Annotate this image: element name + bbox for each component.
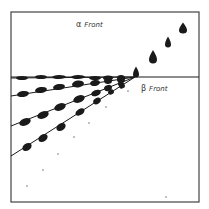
scatter-dot xyxy=(42,169,43,170)
beta-blob xyxy=(90,88,102,97)
scatter-dot xyxy=(105,106,106,107)
reaction-front-diagram xyxy=(0,0,209,209)
alpha-front-label: αFront xyxy=(76,20,103,29)
beta-blob xyxy=(90,79,101,86)
scatter-dots xyxy=(26,90,166,197)
beta-blob xyxy=(74,107,86,117)
beta-front-label: βFront xyxy=(141,84,167,93)
beta-blob xyxy=(92,96,102,105)
scatter-dot xyxy=(73,136,74,137)
alpha-drop xyxy=(165,37,171,48)
alpha-drop xyxy=(133,67,139,78)
beta-blob xyxy=(72,94,86,105)
beta-blob xyxy=(35,75,47,79)
alpha-drops xyxy=(133,23,187,78)
scatter-dot xyxy=(88,122,89,123)
beta-blob xyxy=(37,132,49,143)
alpha-front-text: Front xyxy=(84,21,102,29)
ray-line xyxy=(11,77,135,96)
alpha-drop xyxy=(179,23,187,34)
beta-blob xyxy=(55,121,67,132)
beta-front-text: Front xyxy=(149,85,167,93)
beta-blob xyxy=(35,86,48,94)
alpha-symbol: α xyxy=(76,20,81,29)
beta-symbol: β xyxy=(141,84,146,93)
scatter-dot xyxy=(57,153,58,154)
alpha-drop xyxy=(149,50,157,64)
beta-blob xyxy=(53,102,67,113)
beta-blob xyxy=(17,90,30,98)
scatter-dot xyxy=(165,196,166,197)
beta-blob xyxy=(72,80,85,89)
scatter-dot xyxy=(26,185,27,186)
beta-blob xyxy=(71,75,85,79)
diagram-frame xyxy=(11,12,199,202)
scatter-dot xyxy=(127,90,128,91)
beta-blob xyxy=(52,75,66,79)
